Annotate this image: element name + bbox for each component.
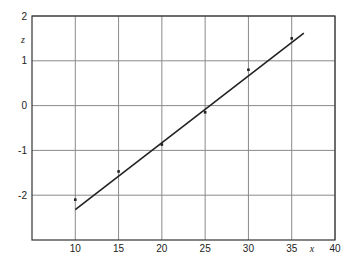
x-tick-label: 10 <box>70 243 82 254</box>
plot-frame <box>32 16 335 240</box>
y-tick-label: 0 <box>21 100 27 111</box>
x-tick-label: 30 <box>243 243 255 254</box>
data-series <box>74 33 304 210</box>
data-point <box>117 170 120 173</box>
data-point <box>74 198 77 201</box>
x-axis-label: x <box>309 243 315 254</box>
y-tick-label: 2 <box>21 11 27 22</box>
data-point <box>247 68 250 71</box>
x-tick-label: 25 <box>200 243 212 254</box>
y-tick-label: -2 <box>18 190 27 201</box>
y-tick-label: 1 <box>21 55 27 66</box>
x-tick-label: 35 <box>286 243 298 254</box>
x-axis-ticks: 10152025303540 <box>70 243 341 254</box>
chart: 10152025303540 210-1-2 x z <box>0 0 357 267</box>
x-tick-label: 20 <box>156 243 168 254</box>
data-point <box>290 37 293 40</box>
y-tick-label: -1 <box>18 145 27 156</box>
x-tick-label: 40 <box>329 243 341 254</box>
data-point <box>204 111 207 114</box>
x-tick-label: 15 <box>113 243 125 254</box>
grid-lines <box>32 16 335 240</box>
fit-line <box>75 33 304 210</box>
y-axis-label: z <box>20 34 25 45</box>
